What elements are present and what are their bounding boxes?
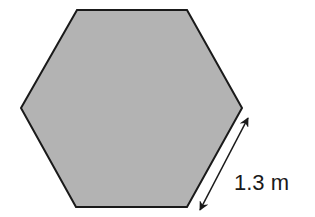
side-length-label: 1.3 m xyxy=(234,170,289,195)
hexagon-diagram: 1.3 m xyxy=(0,0,315,217)
hexagon-shape xyxy=(21,10,242,207)
